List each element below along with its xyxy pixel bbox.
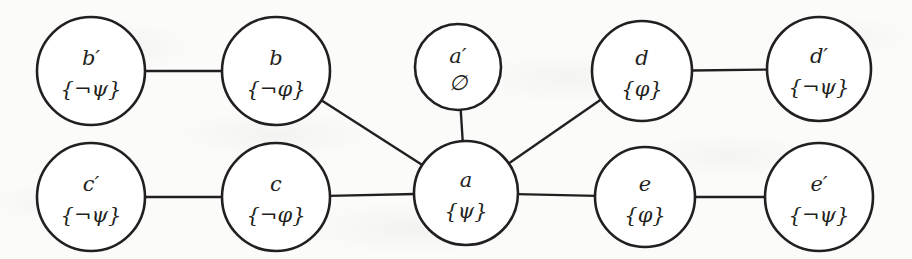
node-c-prime: c′{¬ψ}: [37, 143, 145, 251]
graph-svg: b′{¬ψ}b{¬φ}a′∅d{φ}d′{¬ψ}c′{¬ψ}c{¬φ}a{ψ}e…: [0, 0, 912, 259]
node-set-a-prime: ∅: [449, 71, 469, 95]
node-set-e-prime: {¬ψ}: [789, 203, 850, 227]
node-set-b: {¬φ}: [246, 77, 305, 101]
node-name-a-prime: a′: [449, 44, 467, 68]
edge-b-a: [321, 100, 423, 166]
node-name-e: e: [639, 172, 651, 196]
node-circle-c-prime: [37, 143, 145, 251]
node-circle-e-prime: [765, 143, 873, 251]
node-a-prime: a′∅: [415, 24, 501, 110]
node-circle-d: [592, 21, 692, 121]
node-name-d-prime: d′: [810, 44, 828, 68]
node-circle-a: [414, 141, 518, 245]
edge-c-a: [329, 194, 415, 196]
edge-d-dprime: [691, 70, 768, 71]
node-c: c{¬φ}: [222, 143, 330, 251]
node-set-d: {φ}: [621, 77, 662, 101]
node-e-prime: e′{¬ψ}: [765, 143, 873, 251]
node-circle-e: [595, 147, 695, 247]
edge-a-d: [508, 99, 602, 164]
node-name-b-prime: b′: [82, 46, 100, 70]
node-d-prime: d′{¬ψ}: [767, 17, 871, 121]
node-name-c: c: [270, 172, 282, 196]
node-circle-d-prime: [767, 17, 871, 121]
node-set-a: {ψ}: [444, 199, 487, 223]
node-circle-b: [222, 17, 330, 125]
edge-aprime-a: [461, 109, 463, 142]
node-set-c: {¬φ}: [246, 203, 305, 227]
node-d: d{φ}: [592, 21, 692, 121]
node-a: a{ψ}: [414, 141, 518, 245]
node-set-c-prime: {¬ψ}: [61, 203, 122, 227]
node-name-e-prime: e′: [810, 172, 827, 196]
node-e: e{φ}: [595, 147, 695, 247]
node-set-b-prime: {¬ψ}: [61, 77, 122, 101]
node-circle-c: [222, 143, 330, 251]
node-name-c-prime: c′: [83, 172, 100, 196]
node-set-e: {φ}: [624, 203, 665, 227]
diagram-canvas: b′{¬ψ}b{¬φ}a′∅d{φ}d′{¬ψ}c′{¬ψ}c{¬φ}a{ψ}e…: [0, 0, 912, 259]
node-name-a: a: [460, 168, 473, 192]
node-name-d: d: [635, 46, 648, 70]
node-b-prime: b′{¬ψ}: [37, 17, 145, 125]
node-b: b{¬φ}: [222, 17, 330, 125]
node-set-d-prime: {¬ψ}: [789, 75, 850, 99]
node-name-b: b: [269, 46, 282, 70]
nodes-layer: b′{¬ψ}b{¬φ}a′∅d{φ}d′{¬ψ}c′{¬ψ}c{¬φ}a{ψ}e…: [37, 17, 873, 251]
edge-a-e: [517, 194, 596, 196]
node-circle-b-prime: [37, 17, 145, 125]
